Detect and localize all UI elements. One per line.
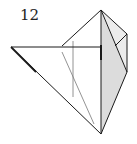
thick-edge-left bbox=[11, 47, 36, 72]
origami-diagram bbox=[0, 0, 137, 144]
fold-line-diagonal bbox=[62, 52, 94, 124]
